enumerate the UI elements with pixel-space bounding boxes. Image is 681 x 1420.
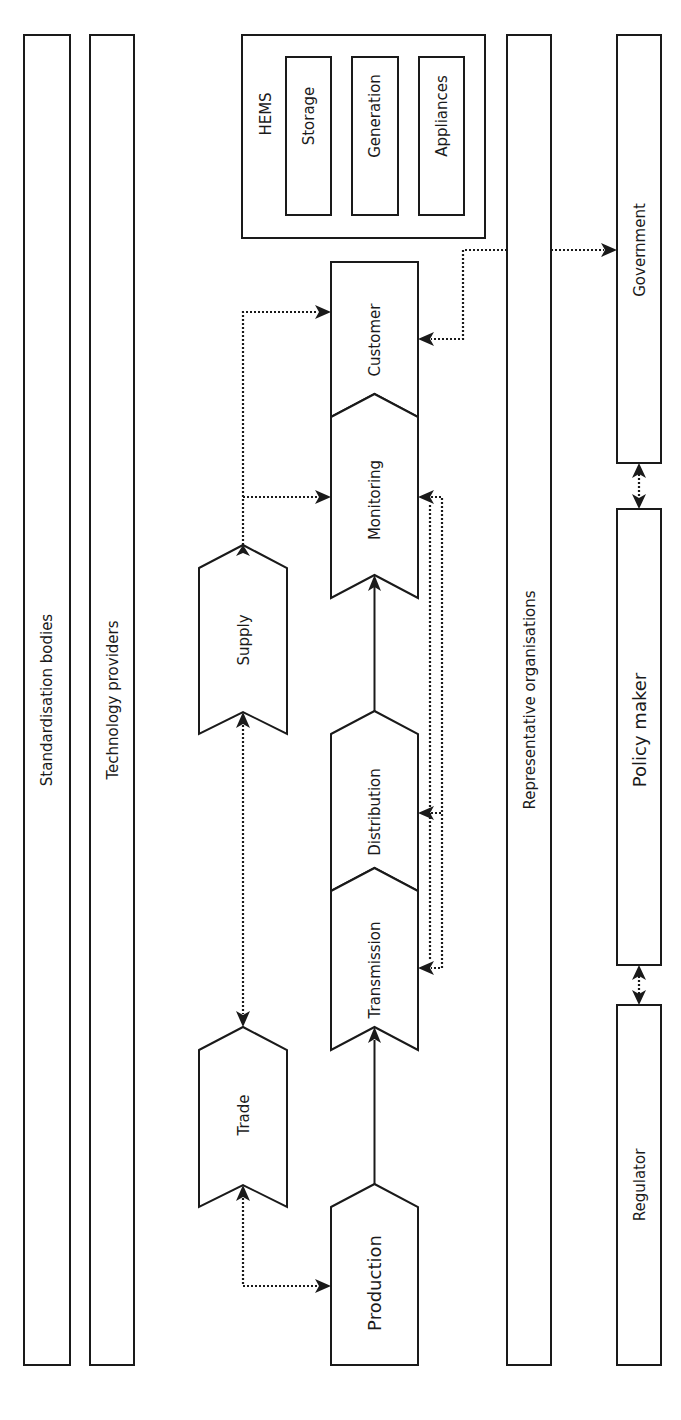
monitoring-label: Monitoring [366,460,384,540]
policy-maker-regulator-link [632,965,646,1005]
regulator-box: Regulator [617,1005,661,1365]
supply-box: Supply [199,545,287,734]
supply-monitoring-customer-link [236,305,331,556]
policy-maker-box: Policy maker [617,509,661,965]
production-label: Production [364,1235,385,1331]
energy-stakeholder-diagram: Standardisation bodies Technology provid… [0,0,681,1420]
distribution-to-monitoring-line [368,575,381,711]
regulator-label: Regulator [631,1148,649,1221]
distribution-box: Distribution [331,711,418,891]
government-box: Government [617,35,661,463]
hems-appliances-label: Appliances [433,75,451,157]
government-policy-maker-link [632,463,646,509]
policy-maker-label: Policy maker [629,672,650,787]
hems-box: HEMS Storage Generation Appliances [242,35,485,238]
hems-title: HEMS [257,92,275,135]
representative-to-government-link [551,243,617,257]
standardisation-bodies-bar: Standardisation bodies [24,35,70,1365]
production-box: Production [331,1184,418,1365]
customer-label: Customer [366,303,384,377]
distribution-label: Distribution [366,768,384,856]
supply-label: Supply [235,614,253,665]
standardisation-bodies-label: Standardisation bodies [38,614,56,787]
representative-to-customer-link [418,250,507,346]
monitoring-box: Monitoring [331,394,418,598]
representative-organisations-label: Representative organisations [521,590,539,809]
trade-supply-link [236,712,250,1027]
hems-storage-label: Storage [300,87,318,146]
transmission-label: Transmission [366,922,384,1020]
government-label: Government [631,203,649,297]
trade-label: Trade [235,1094,253,1136]
trade-box: Trade [199,1027,287,1207]
production-to-transmission-arrow [368,1027,381,1184]
technology-providers-bar: Technology providers [90,35,134,1365]
monitoring-distribution-transmission-link [418,490,442,975]
hems-generation-label: Generation [366,74,384,158]
technology-providers-label: Technology providers [104,620,122,780]
transmission-box: Transmission [331,868,418,1050]
representative-organisations-bar: Representative organisations [507,35,551,1365]
